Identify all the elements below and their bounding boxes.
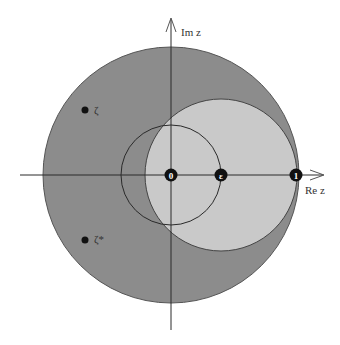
origin-label: 0 — [169, 171, 174, 181]
epsilon-label: ε — [219, 171, 223, 181]
zeta-conj-label: ζ* — [94, 233, 104, 246]
zeta-point — [82, 107, 89, 114]
complex-plane-diagram: Im z Re z 0 ε 1 ζ ζ* — [0, 0, 340, 345]
one-label: 1 — [294, 171, 299, 181]
zeta-label: ζ — [94, 104, 99, 117]
imag-axis-label: Im z — [181, 26, 201, 38]
zeta-conj-point — [82, 237, 89, 244]
real-axis-label: Re z — [305, 184, 325, 196]
